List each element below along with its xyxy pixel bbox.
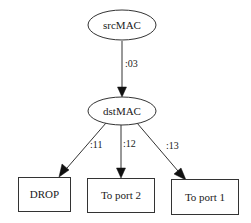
edge-dstmac-port2: :12 (117, 125, 136, 178)
decision-tree-diagram: :03 :11 :12 :13 srcMAC dstMAC DROP To po… (0, 0, 251, 223)
node-srcmac: srcMAC (88, 10, 156, 40)
node-port1: To port 1 (172, 180, 239, 215)
edge-dstmac-drop: :11 (59, 123, 106, 177)
edge-label-03: :03 (125, 58, 138, 69)
edge-label-13: :13 (166, 140, 179, 151)
edge-dstmac-port1: :13 (137, 123, 186, 180)
node-label-port1: To port 1 (185, 191, 225, 203)
node-label-srcmac: srcMAC (103, 19, 141, 31)
edge-label-11: :11 (90, 139, 102, 150)
node-label-drop: DROP (30, 188, 59, 200)
node-label-dstmac: dstMAC (103, 105, 141, 117)
node-port2: To port 2 (88, 179, 155, 213)
edge-label-12: :12 (123, 138, 136, 149)
node-dstmac: dstMAC (88, 97, 156, 125)
node-label-port2: To port 2 (101, 189, 141, 201)
edge-srcmac-dstmac: :03 (118, 41, 138, 97)
node-drop: DROP (19, 178, 71, 212)
